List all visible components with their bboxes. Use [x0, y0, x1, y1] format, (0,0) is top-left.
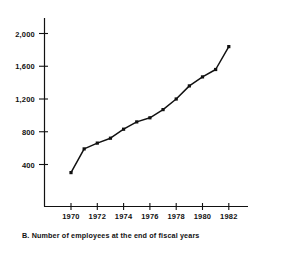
- data-point-1978: [175, 97, 178, 100]
- data-point-1981: [214, 68, 217, 71]
- x-axis-label-1978: 1978: [167, 212, 185, 221]
- data-point-1982: [227, 45, 230, 48]
- data-point-1971: [83, 147, 86, 150]
- data-point-1970: [69, 171, 72, 174]
- chart-caption: B. Number of employees at the end of fis…: [22, 231, 200, 240]
- x-axis-label-1972: 1972: [89, 212, 107, 221]
- data-point-1974: [122, 128, 125, 131]
- data-point-1977: [161, 108, 164, 111]
- x-axis-label-1982: 1982: [220, 212, 238, 221]
- y-axis-label-2000: 2,000: [15, 29, 35, 38]
- chart-figure: 2,000 1,600 1,200 800 400 1970 1972 1974…: [0, 0, 282, 253]
- data-point-1975: [135, 120, 138, 123]
- x-axis-label-1974: 1974: [115, 212, 133, 221]
- chart-axes: [44, 18, 248, 207]
- data-point-1972: [96, 142, 99, 145]
- x-axis-label-1970: 1970: [62, 212, 80, 221]
- data-point-1973: [109, 137, 112, 140]
- y-axis-label-400: 400: [22, 160, 35, 169]
- y-axis-label-1200: 1,200: [15, 95, 35, 104]
- y-axis-label-800: 800: [22, 127, 35, 136]
- data-point-markers: [69, 45, 230, 174]
- x-axis-label-1976: 1976: [141, 212, 159, 221]
- data-point-1979: [188, 84, 191, 87]
- data-series-line: [71, 47, 229, 173]
- data-point-1976: [148, 116, 151, 119]
- y-axis-label-1600: 1,600: [15, 62, 35, 71]
- y-axis-ticks: [39, 34, 48, 165]
- data-point-1980: [201, 75, 204, 78]
- x-axis-label-1980: 1980: [194, 212, 212, 221]
